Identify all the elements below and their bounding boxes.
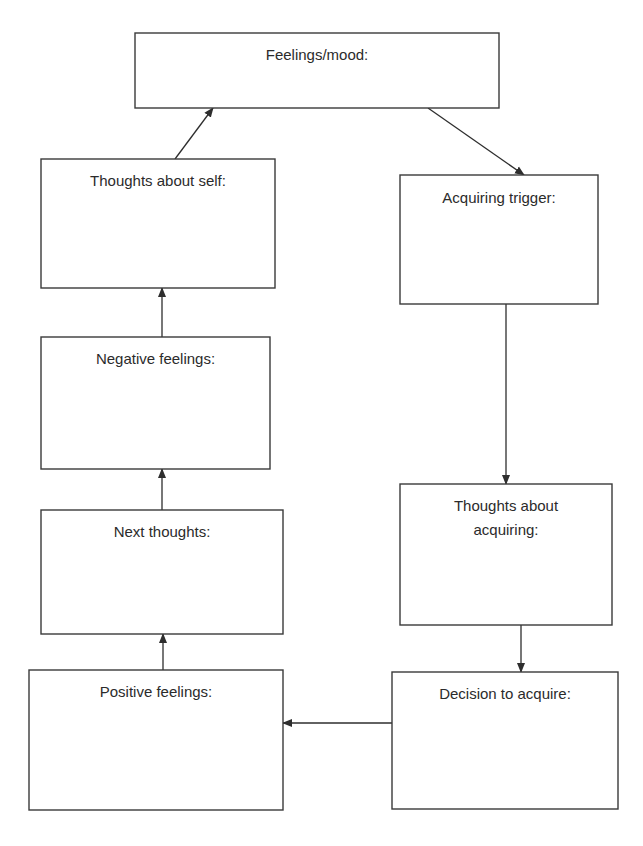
flowchart-diagram: Feelings/mood:Acquiring trigger:Thoughts… (0, 0, 643, 846)
node-label: Next thoughts: (114, 523, 211, 540)
arrow-thoughts-about-self-to-feelings-mood (175, 108, 213, 159)
node-feelings-mood: Feelings/mood: (135, 33, 499, 108)
node-label: Acquiring trigger: (442, 189, 555, 206)
arrow-feelings-mood-to-acquiring-trigger (428, 108, 524, 175)
node-label: Decision to acquire: (439, 685, 571, 702)
node-label: Negative feelings: (96, 350, 215, 367)
node-acquiring-trigger: Acquiring trigger: (400, 175, 598, 304)
node-decision-to-acquire: Decision to acquire: (392, 672, 618, 809)
node-thoughts-about-acquiring: Thoughts aboutacquiring: (400, 484, 612, 625)
node-label: Thoughts about self: (90, 172, 226, 189)
node-negative-feelings: Negative feelings: (41, 337, 270, 469)
node-label: acquiring: (473, 521, 538, 538)
node-label: Positive feelings: (100, 683, 213, 700)
node-next-thoughts: Next thoughts: (41, 510, 283, 634)
node-box (135, 33, 499, 108)
node-positive-feelings: Positive feelings: (29, 670, 283, 810)
node-thoughts-about-self: Thoughts about self: (41, 159, 275, 288)
node-label: Thoughts about (454, 497, 559, 514)
node-label: Feelings/mood: (266, 46, 369, 63)
